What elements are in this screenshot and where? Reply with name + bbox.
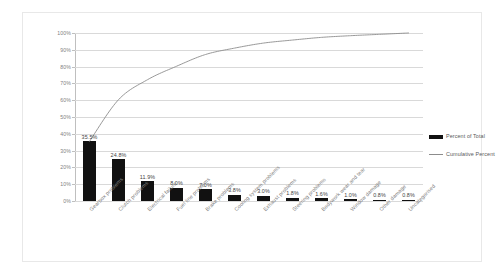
y-axis-tick-label: 40% <box>39 131 71 137</box>
bar-value-labels: 35.5%24.8%11.9%8.0%7.0%3.8%3.0%1.8%1.6%1… <box>75 33 423 201</box>
legend-item-percent-of-total[interactable]: Percent of Total <box>429 133 504 140</box>
pareto-chart-frame: 0%10%20%30%40%50%60%70%80%90%100% 35.5%2… <box>22 12 482 262</box>
y-axis-tick-label: 80% <box>39 64 71 70</box>
bar-value-label: 35.5% <box>76 134 104 140</box>
y-axis-tick-mark <box>72 167 75 168</box>
y-axis-tick-label: 90% <box>39 47 71 53</box>
x-axis-category-labels: Gearbox problemsClutch problemsElectrica… <box>75 204 423 262</box>
chart-legend: Percent of Total Cumulative Percent <box>429 133 504 169</box>
legend-item-cumulative-percent[interactable]: Cumulative Percent <box>429 151 504 158</box>
y-axis-tick-label: 20% <box>39 164 71 170</box>
y-axis-tick-mark <box>72 134 75 135</box>
y-axis-tick-label: 10% <box>39 181 71 187</box>
legend-label-percent-of-total: Percent of Total <box>446 133 485 140</box>
y-axis-tick-mark <box>72 201 75 202</box>
y-axis-tick-label: 100% <box>39 30 71 36</box>
y-axis-tick-mark <box>72 33 75 34</box>
bar-value-label: 24.8% <box>105 152 133 158</box>
y-axis-tick-mark <box>72 184 75 185</box>
y-axis-tick-mark <box>72 151 75 152</box>
y-axis-tick-mark <box>72 50 75 51</box>
y-axis-tick-mark <box>72 117 75 118</box>
y-axis-tick-label: 30% <box>39 148 71 154</box>
y-axis-tick-mark <box>72 67 75 68</box>
y-axis-tick-label: 50% <box>39 114 71 120</box>
y-axis-labels: 0%10%20%30%40%50%60%70%80%90%100% <box>37 33 71 201</box>
legend-label-cumulative-percent: Cumulative Percent <box>446 151 495 158</box>
legend-line-swatch-icon <box>429 154 443 155</box>
y-axis-tick-label: 60% <box>39 97 71 103</box>
y-axis-tick-label: 70% <box>39 80 71 86</box>
y-axis-tick-mark <box>72 100 75 101</box>
y-axis-tick-label: 0% <box>39 198 71 204</box>
bar-value-label: 11.9% <box>134 174 162 180</box>
legend-bar-swatch-icon <box>429 135 443 139</box>
y-axis-tick-mark <box>72 83 75 84</box>
